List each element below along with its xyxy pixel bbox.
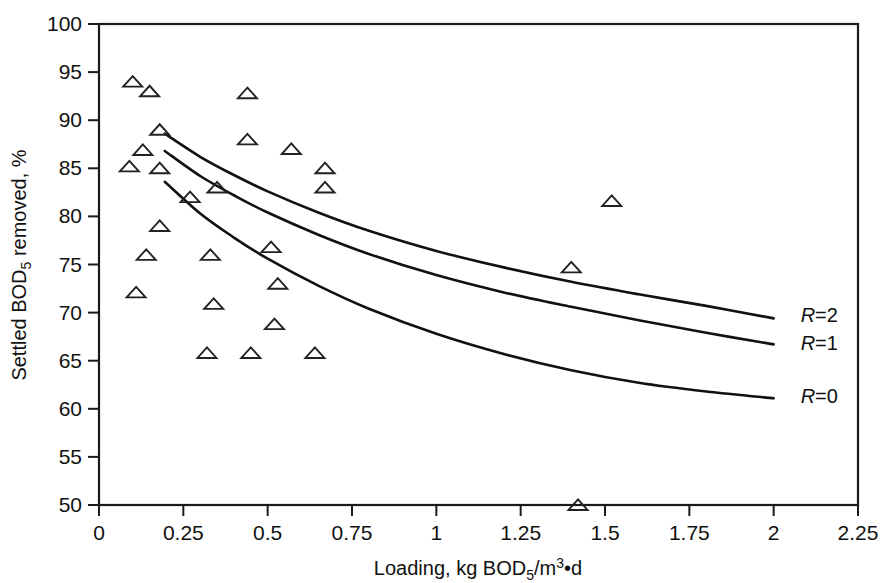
x-tick-label-0: 0 <box>93 521 105 544</box>
y-axis-title-tail: removed, % <box>8 149 30 261</box>
data-point-markers <box>120 76 621 510</box>
chart-container: 50556065707580859095100 00.250.50.7511.2… <box>0 0 881 583</box>
y-axis-title: Settled BOD5 removed, % <box>8 149 34 380</box>
curve-r-1 <box>165 151 774 344</box>
y-tick-label-100: 100 <box>47 12 82 35</box>
data-point-marker <box>316 182 335 193</box>
x-tick-label-0.75: 0.75 <box>332 521 373 544</box>
x-tick-label-2: 2 <box>768 521 780 544</box>
curve-label-r-0: R=0 <box>801 385 838 407</box>
data-point-marker <box>204 298 223 309</box>
data-point-marker <box>120 161 139 172</box>
data-point-marker <box>127 287 146 298</box>
y-tick-label-85: 85 <box>59 156 82 179</box>
y-axis-tick-labels: 50556065707580859095100 <box>47 12 82 516</box>
y-tick-label-55: 55 <box>59 445 82 468</box>
data-point-marker <box>150 220 169 231</box>
data-point-marker <box>262 242 281 253</box>
x-axis-title-superscript: 3 <box>556 555 564 571</box>
y-axis-title-lead: Settled BOD <box>8 269 30 380</box>
data-point-marker <box>197 347 216 358</box>
curve-r-0 <box>165 182 774 398</box>
y-tick-label-75: 75 <box>59 253 82 276</box>
data-point-marker <box>562 262 581 273</box>
data-point-marker <box>201 249 220 260</box>
curve-label-r-2: R=2 <box>801 304 838 326</box>
y-axis-ticks <box>88 24 99 505</box>
data-point-marker <box>602 195 621 206</box>
x-axis-ticks <box>99 505 858 516</box>
x-axis-title-dot-d: •d <box>564 557 582 579</box>
data-point-marker <box>123 76 142 87</box>
y-tick-label-70: 70 <box>59 301 82 324</box>
data-point-marker <box>133 144 152 155</box>
x-tick-label-1.75: 1.75 <box>669 521 710 544</box>
y-tick-label-95: 95 <box>59 60 82 83</box>
curve-label-r-1: R=1 <box>801 332 838 354</box>
plot-frame <box>99 24 858 505</box>
data-point-marker <box>241 347 260 358</box>
data-point-marker <box>137 249 156 260</box>
scatter-chart-figure: 50556065707580859095100 00.250.50.7511.2… <box>0 0 881 583</box>
x-tick-label-0.25: 0.25 <box>163 521 204 544</box>
x-axis-title-lead: Loading, kg BOD <box>374 557 526 579</box>
x-tick-label-1.25: 1.25 <box>500 521 541 544</box>
y-tick-label-65: 65 <box>59 349 82 372</box>
data-point-marker <box>265 319 284 330</box>
x-axis-tick-labels: 00.250.50.7511.251.51.7522.25 <box>93 521 878 544</box>
curve-labels: R=2R=1R=0 <box>801 304 838 408</box>
data-point-marker <box>305 347 324 358</box>
y-tick-label-90: 90 <box>59 108 82 131</box>
data-point-marker <box>268 278 287 289</box>
x-axis-title-subscript: 5 <box>526 567 534 583</box>
x-tick-label-0.5: 0.5 <box>253 521 282 544</box>
x-tick-label-2.25: 2.25 <box>838 521 879 544</box>
x-axis-title: Loading, kg BOD5/m3•d <box>374 555 582 583</box>
data-point-marker <box>316 163 335 174</box>
y-axis-title-subscript: 5 <box>18 261 34 269</box>
y-tick-label-60: 60 <box>59 397 82 420</box>
curve-r-2 <box>165 134 774 319</box>
x-tick-label-1.5: 1.5 <box>590 521 619 544</box>
y-tick-label-50: 50 <box>59 493 82 516</box>
data-point-marker <box>238 134 257 145</box>
data-point-marker <box>238 88 257 99</box>
data-point-marker <box>282 143 301 154</box>
x-axis-title-slash-m: /m <box>534 557 556 579</box>
y-tick-label-80: 80 <box>59 204 82 227</box>
data-point-marker <box>150 163 169 174</box>
x-tick-label-1: 1 <box>430 521 442 544</box>
